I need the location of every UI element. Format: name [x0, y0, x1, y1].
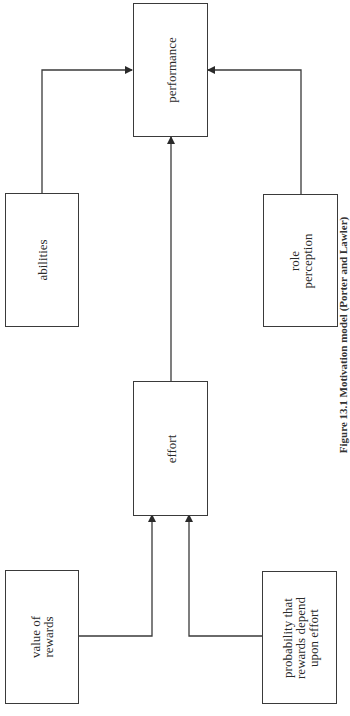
- probability-line3: upon effort: [306, 597, 319, 679]
- figure-caption: Figure 13.1 Motivation model (Porter and…: [337, 217, 349, 453]
- effort-label: effort: [164, 434, 177, 463]
- probability-line1: probability that: [280, 597, 293, 679]
- abilities-box: abilities: [5, 193, 79, 327]
- value-of-rewards-label: value of rewards: [29, 616, 55, 658]
- role-perception-line2: perception: [301, 233, 314, 288]
- role-perception-label: role perception: [288, 233, 314, 288]
- role-perception-box: role perception: [263, 194, 338, 327]
- edge-value-effort: [78, 515, 152, 636]
- probability-line2: rewards depend: [293, 597, 306, 679]
- value-of-rewards-line2: rewards: [42, 616, 55, 658]
- probability-box: probability that rewards depend upon eff…: [262, 571, 337, 704]
- edge-role-performance: [208, 70, 301, 194]
- performance-label: performance: [164, 37, 177, 103]
- value-of-rewards-box: value of rewards: [5, 570, 79, 704]
- edge-probability-effort: [189, 515, 262, 636]
- effort-box: effort: [133, 381, 208, 516]
- abilities-label: abilities: [36, 239, 49, 280]
- role-perception-line1: role: [288, 233, 301, 288]
- edge-abilities-performance: [42, 70, 132, 194]
- probability-label: probability that rewards depend upon eff…: [280, 597, 319, 679]
- performance-box: performance: [133, 3, 208, 137]
